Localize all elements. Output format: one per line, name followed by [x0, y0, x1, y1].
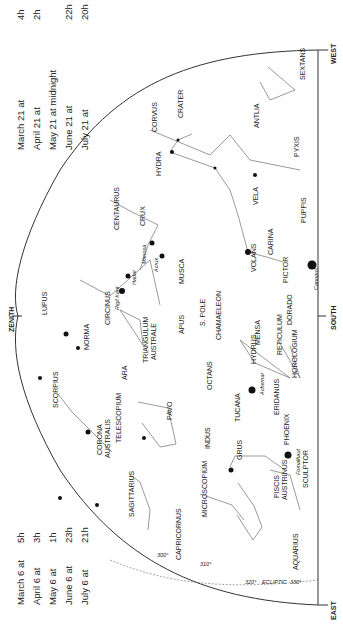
svg-text:4h: 4h	[15, 9, 26, 20]
svg-text:320°: 320°	[245, 579, 257, 585]
svg-text:June 21 at: June 21 at	[63, 105, 74, 150]
svg-text:20h: 20h	[79, 4, 90, 20]
label-south: SOUTH	[330, 306, 337, 331]
svg-text:2h: 2h	[31, 9, 42, 20]
times-top-table: March 21 at4h April 21 at2h May 21 at mi…	[15, 4, 90, 150]
svg-text:ERIDANUS: ERIDANUS	[273, 378, 280, 415]
svg-text:HYDRA: HYDRA	[155, 151, 162, 176]
svg-text:ARA: ARA	[121, 365, 128, 380]
svg-text:MICROSCOPIUM: MICROSCOPIUM	[201, 461, 208, 517]
svg-text:Mimosa: Mimosa	[141, 245, 147, 264]
label-zenith: ZENITH	[8, 307, 15, 332]
svg-text:23h: 23h	[63, 527, 74, 543]
svg-text:Achernar: Achernar	[259, 372, 265, 396]
svg-text:AQUARIUS: AQUARIUS	[292, 533, 300, 570]
svg-text:RETICULUM: RETICULUM	[276, 314, 283, 355]
svg-text:NORMA: NORMA	[83, 324, 90, 350]
svg-text:AUSTRINUS: AUSTRINUS	[281, 459, 288, 500]
svg-text:MUSCA: MUSCA	[178, 258, 185, 284]
svg-text:21h: 21h	[79, 527, 90, 543]
svg-text:S. POLE: S. POLE	[199, 298, 206, 326]
svg-text:300°: 300°	[157, 552, 169, 558]
svg-text:330°: 330°	[290, 579, 302, 585]
svg-text:HOROLOGIUM: HOROLOGIUM	[291, 329, 298, 378]
svg-text:CAPRICORNUS: CAPRICORNUS	[175, 508, 182, 560]
svg-text:March 21 at: March 21 at	[15, 99, 26, 150]
svg-text:SEXTANS: SEXTANS	[299, 48, 306, 80]
svg-text:CORONA: CORONA	[96, 424, 103, 455]
svg-text:CHAMAELEON: CHAMAELEON	[215, 291, 222, 340]
svg-text:310°: 310°	[200, 561, 212, 567]
svg-text:PHOENIX: PHOENIX	[283, 413, 290, 445]
label-west: WEST	[330, 43, 337, 64]
svg-text:PUPPIS: PUPPIS	[300, 197, 307, 223]
svg-text:July 6 at: July 6 at	[79, 569, 90, 605]
svg-text:VOLANS: VOLANS	[250, 243, 257, 272]
svg-text:LUPUS: LUPUS	[41, 291, 48, 315]
svg-text:PAVO: PAVO	[166, 401, 173, 420]
svg-text:Hadar: Hadar	[131, 269, 137, 285]
svg-text:TRIANGULUM: TRIANGULUM	[142, 317, 149, 363]
svg-text:INDUS: INDUS	[204, 427, 211, 449]
svg-text:May 6 at: May 6 at	[47, 568, 58, 605]
svg-text:SAGITTARIUS: SAGITTARIUS	[128, 471, 135, 517]
svg-text:ANTLIA: ANTLIA	[253, 103, 260, 128]
svg-text:APUS: APUS	[178, 315, 185, 334]
label-east: EAST	[330, 601, 337, 620]
times-bottom-table: March 6 at5h April 6 at3h May 6 at1h Jun…	[15, 527, 90, 605]
sky-boundary-arc	[15, 50, 318, 605]
svg-text:Rigil Kent: Rigil Kent	[114, 286, 120, 310]
svg-text:Acrux: Acrux	[153, 258, 159, 273]
svg-text:June 6 at: June 6 at	[63, 566, 74, 605]
svg-text:PISCIS: PISCIS	[273, 475, 280, 498]
svg-text:SCULPTOR: SCULPTOR	[302, 450, 309, 488]
svg-text:CRUX: CRUX	[139, 206, 146, 226]
svg-text:GRUS: GRUS	[236, 439, 243, 460]
svg-text:ECLIPTIC: ECLIPTIC	[262, 579, 287, 585]
svg-text:VELA: VELA	[252, 187, 259, 205]
svg-text:TUCANA: TUCANA	[234, 393, 241, 422]
svg-text:TELESCOPIUM: TELESCOPIUM	[115, 393, 122, 443]
svg-text:Canopus: Canopus	[313, 268, 319, 290]
svg-text:HYDRUS: HYDRUS	[250, 334, 257, 364]
svg-text:1h: 1h	[47, 532, 58, 543]
svg-text:CIRCINUS: CIRCINUS	[104, 291, 111, 325]
svg-text:5h: 5h	[15, 532, 26, 543]
svg-text:CRATER: CRATER	[177, 90, 184, 118]
svg-text:AUSTRALIS: AUSTRALIS	[104, 419, 111, 458]
svg-text:AUSTRALE: AUSTRALE	[150, 323, 157, 360]
svg-text:PICTOR: PICTOR	[282, 257, 289, 283]
constellation-lines	[58, 67, 300, 540]
svg-text:Fomalhaut: Fomalhaut	[295, 449, 301, 475]
svg-text:SCORPIUS: SCORPIUS	[52, 371, 59, 408]
svg-text:May 21 at midnight: May 21 at midnight	[47, 69, 58, 150]
svg-text:DORADO: DORADO	[286, 294, 293, 325]
svg-text:CENTAURUS: CENTAURUS	[113, 187, 120, 230]
svg-text:April 21 at: April 21 at	[31, 107, 42, 150]
svg-text:July 21 at: July 21 at	[79, 109, 90, 150]
svg-text:OCTANS: OCTANS	[206, 361, 213, 390]
ecliptic-line	[110, 560, 318, 585]
svg-text:PYXIS: PYXIS	[293, 136, 300, 157]
svg-text:April 6 at: April 6 at	[31, 567, 42, 605]
svg-text:March 6 at: March 6 at	[15, 560, 26, 605]
star-chart: March 21 at4h April 21 at2h May 21 at mi…	[0, 0, 343, 628]
svg-text:3h: 3h	[31, 532, 42, 543]
svg-text:CARINA: CARINA	[267, 228, 274, 255]
svg-text:22h: 22h	[63, 4, 74, 20]
svg-text:CORVUS: CORVUS	[151, 102, 158, 132]
